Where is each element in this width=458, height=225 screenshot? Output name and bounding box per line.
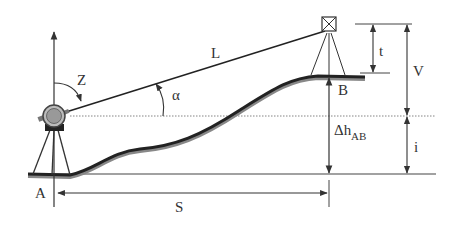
height-difference-label: Δh <box>334 122 352 138</box>
vertical-difference-label: V <box>413 63 424 79</box>
vertical-angle-label: α <box>172 87 180 103</box>
diagram-canvas: Z L α B Δh AB t V i S A <box>0 0 458 225</box>
trig-leveling-diagram: Z L α B Δh AB t V i S A <box>0 0 458 225</box>
horizontal-distance-label: S <box>175 199 183 215</box>
slope-distance-label: L <box>211 45 220 61</box>
height-difference-subscript: AB <box>351 130 366 142</box>
zenith-angle-label: Z <box>77 72 86 88</box>
target-height-label: t <box>379 43 384 59</box>
terrain-profile <box>28 76 365 175</box>
slope-distance-line <box>66 31 325 112</box>
instrument-height-label: i <box>414 139 418 155</box>
terrain-shadow <box>28 78 365 177</box>
target-prism-icon <box>311 17 345 75</box>
total-station-icon <box>33 105 70 175</box>
vertical-angle-arc <box>156 84 164 116</box>
point-a-label: A <box>35 185 46 201</box>
point-b-label: B <box>338 82 348 98</box>
